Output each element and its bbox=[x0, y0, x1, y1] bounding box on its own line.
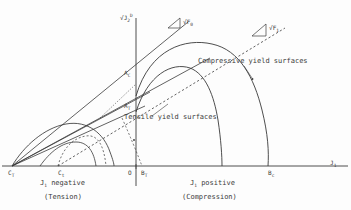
region-caption-tension-line2: (Tension) bbox=[44, 194, 82, 201]
slope-sub-f0: 0 bbox=[190, 22, 193, 27]
tensile-surface-inner bbox=[40, 142, 96, 166]
region-caption-tension-line1: J1 negative bbox=[40, 180, 85, 189]
point-sub-c-t: T bbox=[12, 173, 15, 178]
region-caption-compression-line1: J1 positive bbox=[190, 180, 235, 189]
point-label-a-c: AC bbox=[124, 70, 130, 79]
point-sub-a-c: C bbox=[128, 73, 131, 78]
point-label-b-c: Bc bbox=[268, 170, 274, 179]
y-axis-label: √J2D bbox=[120, 14, 133, 24]
point-sub-c-t: t bbox=[62, 173, 65, 178]
yield-surface-figure: √J2D J1 √F0 √F1 Compressive yield surfac… bbox=[0, 0, 351, 210]
slope-triangle-f0 bbox=[168, 18, 180, 28]
y-axis-superscript: D bbox=[130, 13, 133, 18]
slope-sub-f1: 1 bbox=[276, 28, 279, 33]
point-base-o: O bbox=[128, 169, 132, 176]
region-tension-tail: negative bbox=[47, 179, 85, 187]
y-axis-subscript: 2 bbox=[127, 18, 130, 23]
point-label-c-t: Ct bbox=[58, 170, 64, 179]
x-axis-subscript: 1 bbox=[334, 163, 337, 168]
point-label-o: O bbox=[128, 170, 132, 176]
point-label-a-t: AT bbox=[124, 103, 130, 112]
annotation-compressive: Compressive yield surfaces bbox=[198, 58, 308, 65]
point-sub-b-c: c bbox=[272, 173, 275, 178]
leader-dot-compressive bbox=[252, 78, 254, 80]
leader-dot-tensile bbox=[133, 139, 135, 141]
slope-label-f1: √F1 bbox=[269, 25, 279, 34]
dashed-tensile-leader bbox=[122, 118, 142, 166]
leader-compressive bbox=[244, 66, 252, 78]
slope-label-f0: √F0 bbox=[183, 19, 193, 28]
point-sub-a-t: T bbox=[128, 106, 131, 111]
x-axis-label: J1 bbox=[330, 160, 336, 169]
point-sub-b-t: T bbox=[145, 173, 148, 178]
region-compression-tail: positive bbox=[197, 179, 235, 187]
slope-triangle-f1 bbox=[252, 24, 266, 36]
point-label-b-t: BT bbox=[141, 170, 147, 179]
annotation-tensile: Tensile yield surfaces bbox=[124, 114, 217, 121]
envelope-line-f0 bbox=[12, 22, 188, 166]
region-caption-compression-line2: (Compression) bbox=[182, 194, 237, 201]
point-label-c-t: CT bbox=[8, 170, 14, 179]
tensile-surface-dashed bbox=[58, 136, 106, 166]
